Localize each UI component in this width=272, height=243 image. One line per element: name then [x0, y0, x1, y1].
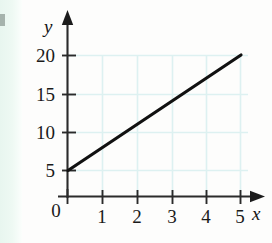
- y-axis-ticks: [62, 56, 76, 171]
- x-tick-label-4: 4: [197, 207, 215, 226]
- y-tick-label-20: 20: [19, 46, 55, 65]
- arrow-right-icon: [250, 191, 265, 203]
- y-tick-label-10: 10: [19, 123, 55, 142]
- data-series-line: [68, 55, 241, 171]
- y-tick-label-15: 15: [19, 85, 55, 104]
- gridlines-vertical: [103, 55, 241, 196]
- arrow-up-icon: [62, 10, 73, 25]
- x-axis-label: x: [252, 204, 260, 223]
- x-tick-label-5: 5: [231, 207, 249, 226]
- origin-label: 0: [47, 201, 65, 220]
- y-tick-label-5: 5: [19, 161, 55, 180]
- chart-figure: y x 20 15 10 5 0 1 2 3 4 5: [0, 0, 272, 243]
- x-axis: [58, 191, 265, 203]
- y-axis-label: y: [44, 17, 52, 36]
- x-tick-label-1: 1: [93, 207, 111, 226]
- x-tick-label-3: 3: [163, 207, 181, 226]
- x-tick-label-2: 2: [128, 207, 146, 226]
